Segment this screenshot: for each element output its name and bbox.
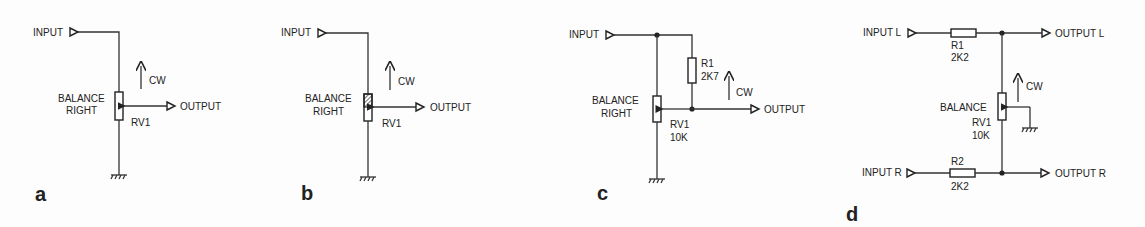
balance-circuits-figure: INPUT OUTPUT BALANCE RIGHT RV1 CW a INPU… <box>0 0 1145 227</box>
input-terminal-icon <box>70 28 78 36</box>
input-label: INPUT <box>33 27 63 38</box>
output-label: OUTPUT <box>764 104 805 115</box>
panel-label: d <box>846 203 858 225</box>
input-label: INPUT <box>281 27 311 38</box>
r1-ref: R1 <box>951 40 964 51</box>
direction-label: CW <box>736 87 753 98</box>
pot-value: 10K <box>972 130 990 141</box>
output-label: OUTPUT <box>430 102 471 113</box>
ground-icon <box>649 179 665 183</box>
input-label: INPUT <box>569 29 599 40</box>
pot-ref: RV1 <box>131 117 151 128</box>
pot-ref: RV1 <box>972 117 992 128</box>
r1-value: 2K2 <box>951 52 969 63</box>
direction-label: CW <box>398 76 415 87</box>
r2-value: 2K2 <box>951 181 969 192</box>
pot-label-line1: BALANCE <box>58 93 105 104</box>
pot-label: BALANCE <box>940 102 987 113</box>
output-terminal-icon <box>167 102 175 110</box>
ground-icon <box>111 175 127 179</box>
resistor-value: 2K7 <box>701 71 719 82</box>
r2-ref: R2 <box>951 156 964 167</box>
pot-ref: RV1 <box>670 119 690 130</box>
output-terminal-icon <box>751 105 759 113</box>
input-terminal-icon <box>606 31 614 39</box>
direction-label: CW <box>149 75 166 86</box>
pot-label-line1: BALANCE <box>592 95 639 106</box>
panel-a: INPUT OUTPUT BALANCE RIGHT RV1 CW a <box>33 27 221 205</box>
output-r-terminal-icon <box>1041 169 1049 177</box>
resistor-r2 <box>950 169 975 177</box>
resistor-ref: R1 <box>701 58 714 69</box>
input-l-terminal-icon <box>908 29 916 37</box>
pot-ref: RV1 <box>382 118 402 129</box>
panel-label: c <box>597 182 608 204</box>
input-l-label: INPUT L <box>863 27 902 38</box>
output-label: OUTPUT <box>180 101 221 112</box>
potentiometer-rv1 <box>998 93 1006 120</box>
output-l-label: OUTPUT L <box>1055 28 1105 39</box>
output-l-terminal-icon <box>1042 29 1050 37</box>
potentiometer-rv1 <box>115 92 123 120</box>
input-terminal-icon <box>318 29 326 37</box>
panel-b: INPUT OUTPUT BALANCE RIGHT RV1 CW b <box>281 27 471 204</box>
pot-label-line2: RIGHT <box>313 106 344 117</box>
pot-label-line2: RIGHT <box>601 108 632 119</box>
output-r-label: OUTPUT R <box>1055 168 1106 179</box>
panel-d: INPUT L OUTPUT L R1 2K2 BALANCE RV1 10K … <box>846 27 1106 225</box>
ground-icon <box>1022 128 1038 132</box>
panel-label: b <box>301 182 313 204</box>
panel-c: INPUT OUTPUT R1 2K7 BALANCE RIGHT RV1 10… <box>569 29 805 204</box>
pot-label-line1: BALANCE <box>305 93 352 104</box>
direction-label: CW <box>1026 81 1043 92</box>
input-r-label: INPUT R <box>862 167 902 178</box>
pot-label-line2: RIGHT <box>66 105 97 116</box>
potentiometer-rv1 <box>653 96 661 122</box>
resistor-r1 <box>951 29 976 37</box>
input-r-terminal-icon <box>907 169 915 177</box>
output-terminal-icon <box>416 103 424 111</box>
pot-value: 10K <box>670 132 688 143</box>
junction-dot <box>999 170 1004 175</box>
resistor-r1 <box>688 58 696 83</box>
ground-icon <box>360 177 376 181</box>
panel-label: a <box>35 183 47 205</box>
